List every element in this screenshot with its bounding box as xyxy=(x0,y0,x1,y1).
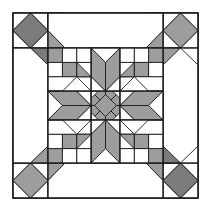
tr-patch-r2c2 xyxy=(134,62,148,76)
bl-patch-r2c1 xyxy=(48,134,62,148)
br-patch-r2c3 xyxy=(149,134,163,148)
inner-unit-top-left xyxy=(48,48,91,91)
tr-patch-r1c2 xyxy=(134,48,148,62)
bl-patch-r3c1 xyxy=(48,149,62,163)
top-panel-field xyxy=(48,13,163,48)
star-arm-north xyxy=(91,48,120,91)
bottom-right-corner-block xyxy=(163,163,198,198)
tl-patch-r2c2 xyxy=(62,62,76,76)
tl-patch-r1c3 xyxy=(77,48,91,62)
bl-patch-r3c3 xyxy=(77,149,91,163)
right-side-panel xyxy=(163,48,198,163)
tl-patch-r1c1 xyxy=(48,48,62,62)
bottom-panel-field xyxy=(48,163,163,198)
quilt-block-figure: .w{fill:#ffffff;} .lg{fill:#9d9d9d;} .dg… xyxy=(0,0,208,219)
tl-patch-r2c1 xyxy=(48,62,62,76)
quilt-block-canvas: .w{fill:#ffffff;} .lg{fill:#9d9d9d;} .dg… xyxy=(0,0,208,219)
star-arm-south xyxy=(91,120,120,163)
bl-patch-r3c2 xyxy=(62,149,76,163)
star-arm-west xyxy=(48,91,91,120)
bl-patch-r2c2 xyxy=(62,134,76,148)
inner-unit-top-right xyxy=(120,48,163,91)
bottom-left-corner-block xyxy=(13,163,48,198)
br-patch-r3c3 xyxy=(149,149,163,163)
tl-patch-r1c2 xyxy=(62,48,76,62)
inner-unit-bottom-left xyxy=(48,120,91,163)
left-side-panel xyxy=(13,48,48,163)
center-eight-point-star xyxy=(91,91,120,120)
top-left-corner-block xyxy=(13,13,48,48)
right-panel-field xyxy=(163,48,198,163)
star-arm-east xyxy=(120,91,163,120)
tr-patch-r1c1 xyxy=(120,48,134,62)
bottom-side-panel xyxy=(48,163,163,198)
top-right-corner-block xyxy=(163,13,198,48)
br-patch-r2c2 xyxy=(134,134,148,148)
tr-patch-r2c3 xyxy=(149,62,163,76)
top-side-panel xyxy=(48,13,163,48)
tr-patch-r1c3 xyxy=(149,48,163,62)
br-patch-r3c1 xyxy=(120,149,134,163)
br-patch-r3c2 xyxy=(134,149,148,163)
inner-unit-bottom-right xyxy=(120,120,163,163)
left-panel-field xyxy=(13,48,48,163)
